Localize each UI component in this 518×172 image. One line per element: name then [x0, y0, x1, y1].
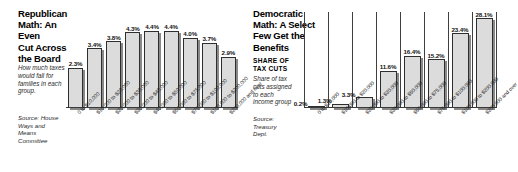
republican-chart-panel: Republican Math: An Even Cut Across the …: [0, 0, 249, 172]
bar-value-label: 0.2%: [294, 100, 308, 107]
bar-value-label: 16.4%: [403, 48, 420, 55]
bar-slot: 0.2%: [304, 12, 328, 108]
bar-value-label: 4.4%: [145, 23, 159, 30]
column-separator: [496, 12, 497, 108]
democratic-chart-panel: Democratic Math: A Select Few Get the Be…: [249, 0, 499, 172]
bar-value-label: 23.4%: [451, 26, 468, 33]
bar-value-label: 4.0%: [183, 30, 197, 37]
bar-value-label: 2.3%: [69, 60, 83, 67]
bar: 2.3%: [68, 68, 83, 108]
bar-value-label: 3.7%: [202, 35, 216, 42]
bar-value-label: 15.2%: [427, 52, 444, 59]
right-chart-source: Source: Treasury Dept.: [253, 115, 305, 138]
bar-value-label: 4.4%: [164, 23, 178, 30]
bar-slot: 2.3%: [66, 20, 85, 108]
bar-value-label: 11.6%: [380, 63, 397, 70]
left-chart-source: Source: House Ways and Means Committee: [18, 114, 70, 144]
bar-value-label: 3.8%: [107, 34, 121, 41]
bar-value-label: 2.9%: [222, 49, 236, 56]
bar-value-label: 28.1%: [475, 11, 492, 18]
bar-value-label: 4.3%: [126, 25, 140, 32]
bar-value-label: 3.4%: [88, 41, 102, 48]
